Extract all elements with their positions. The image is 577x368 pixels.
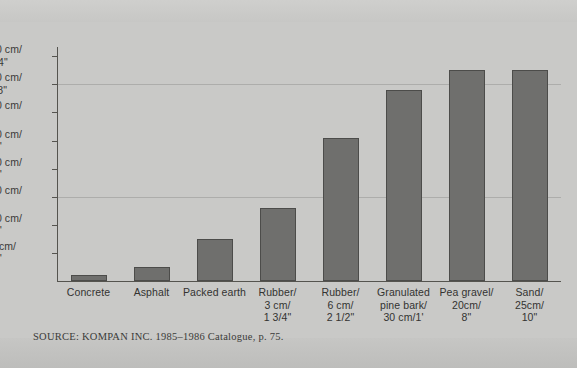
- x-axis-label: Granulated pine bark/ 30 cm/1': [369, 286, 438, 324]
- y-axis-tick: [52, 169, 58, 170]
- figure-page: 50 cm/ 1'8"100 cm/ 3'4"150 cm/ 5'200 cm/…: [0, 0, 577, 368]
- gridline: [58, 197, 561, 198]
- y-axis-tick: [52, 56, 58, 57]
- y-axis-tick: [52, 84, 58, 85]
- y-axis-tick: [52, 197, 58, 198]
- y-axis-tick-label: 150 cm/ 5': [0, 184, 50, 209]
- x-axis-label: Sand/ 25cm/ 10": [495, 286, 564, 324]
- x-axis-line: [57, 281, 561, 282]
- y-axis-tick-label: 300 cm/ 10': [0, 99, 50, 124]
- y-axis-tick-label: 200 cm/ 6'8": [0, 156, 50, 181]
- bar: [386, 90, 422, 281]
- y-axis-tick-label: 350 cm/ 11'8": [0, 71, 50, 96]
- paper-bottom-band: [0, 338, 577, 368]
- x-axis-label: Rubber/ 6 cm/ 2 1/2": [306, 286, 375, 324]
- y-axis-line: [57, 47, 58, 281]
- plot-area: 50 cm/ 1'8"100 cm/ 3'4"150 cm/ 5'200 cm/…: [57, 45, 561, 281]
- bar: [260, 208, 296, 281]
- bar: [71, 275, 107, 281]
- y-axis-tick: [52, 112, 58, 113]
- bar: [512, 70, 548, 281]
- x-axis-label: Asphalt: [117, 286, 186, 299]
- bar: [134, 267, 170, 281]
- x-axis-label: Pea gravel/ 20cm/ 8": [432, 286, 501, 324]
- bar: [449, 70, 485, 281]
- paper-top-band: [0, 0, 577, 22]
- y-axis-tick-label: 400 cm/ 13'4": [0, 43, 50, 68]
- y-axis-tick: [52, 141, 58, 142]
- x-axis-label: Packed earth: [180, 286, 249, 299]
- bar-chart: 50 cm/ 1'8"100 cm/ 3'4"150 cm/ 5'200 cm/…: [57, 45, 561, 283]
- y-axis-tick: [52, 225, 58, 226]
- x-axis-label: Concrete: [54, 286, 123, 299]
- gridline: [58, 84, 561, 85]
- y-axis-tick: [52, 253, 58, 254]
- bar: [197, 239, 233, 281]
- x-axis-label: Rubber/ 3 cm/ 1 3/4": [243, 286, 312, 324]
- bar: [323, 138, 359, 281]
- y-axis-tick-label: 100 cm/ 3'4": [0, 212, 50, 237]
- source-note: SOURCE: KOMPAN INC. 1985–1986 Catalogue,…: [33, 331, 284, 342]
- y-axis-tick-label: 250 cm/ 8'4": [0, 128, 50, 153]
- y-axis-tick-label: 50 cm/ 1'8": [0, 240, 50, 265]
